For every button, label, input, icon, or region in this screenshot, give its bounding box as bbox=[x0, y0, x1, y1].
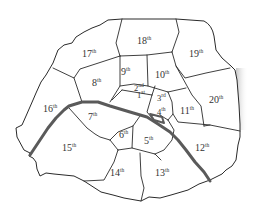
paris-arrondissements-map: 1st 2nd 3rd 4th 5th 6th 7th 8th 9th 10th… bbox=[0, 0, 262, 216]
